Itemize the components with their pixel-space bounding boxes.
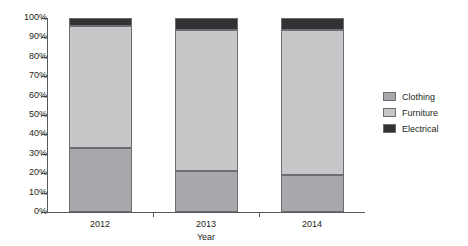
y-axis-line — [47, 18, 48, 212]
y-axis-tick: 60% — [0, 96, 47, 97]
legend-item-electrical[interactable]: Electrical — [383, 121, 468, 136]
x-tick-label-2014: 2014 — [259, 219, 365, 229]
bar-segment-furniture-2012 — [69, 26, 132, 148]
legend-swatch-furniture-icon — [383, 108, 396, 117]
legend-swatch-electrical-icon — [383, 124, 396, 133]
bar-segment-furniture-2014 — [281, 30, 344, 176]
bar-segment-electrical-2012 — [69, 18, 132, 26]
legend-label-clothing: Clothing — [402, 92, 435, 102]
y-axis-tick: 80% — [0, 57, 47, 58]
y-axis-tick: 10% — [0, 193, 47, 194]
y-axis-tick: 50% — [0, 115, 47, 116]
x-axis-title: Year — [47, 232, 365, 242]
y-axis-tick: 40% — [0, 134, 47, 135]
bar-segment-clothing-2014 — [281, 175, 344, 212]
y-tick-label: 20% — [11, 168, 47, 177]
stacked-bar-chart: 0%10%20%30%40%50%60%70%80%90%100% 201220… — [0, 0, 468, 246]
x-tick-mark — [259, 212, 260, 217]
x-tick-mark — [153, 212, 154, 217]
bar-segment-electrical-2013 — [175, 18, 238, 30]
legend-item-furniture[interactable]: Furniture — [383, 105, 468, 120]
x-axis-line — [47, 212, 365, 213]
legend-item-clothing[interactable]: Clothing — [383, 89, 468, 104]
y-axis-tick: 0% — [0, 212, 47, 213]
y-axis-tick: 20% — [0, 173, 47, 174]
bar-segment-furniture-2013 — [175, 30, 238, 172]
y-axis-tick: 70% — [0, 76, 47, 77]
chart-legend: ClothingFurnitureElectrical — [383, 89, 468, 137]
bar-segment-electrical-2014 — [281, 18, 344, 30]
y-tick-label: 80% — [11, 52, 47, 61]
y-axis-tick: 30% — [0, 154, 47, 155]
bar-2012 — [69, 18, 132, 212]
y-tick-label: 10% — [11, 188, 47, 197]
y-tick-label: 70% — [11, 71, 47, 80]
y-tick-label: 90% — [11, 32, 47, 41]
y-tick-label: 40% — [11, 129, 47, 138]
y-tick-label: 0% — [11, 207, 47, 216]
y-tick-label: 30% — [11, 149, 47, 158]
bar-segment-clothing-2012 — [69, 148, 132, 212]
y-axis-tick: 90% — [0, 37, 47, 38]
y-tick-label: 100% — [11, 13, 47, 22]
x-tick-label-2013: 2013 — [153, 219, 259, 229]
bar-2013 — [175, 18, 238, 212]
x-tick-label-2012: 2012 — [47, 219, 153, 229]
bar-2014 — [281, 18, 344, 212]
y-axis-tick: 100% — [0, 18, 47, 19]
y-tick-label: 50% — [11, 110, 47, 119]
legend-label-furniture: Furniture — [402, 108, 438, 118]
legend-label-electrical: Electrical — [402, 124, 439, 134]
y-tick-label: 60% — [11, 91, 47, 100]
bar-segment-clothing-2013 — [175, 171, 238, 212]
legend-swatch-clothing-icon — [383, 92, 396, 101]
